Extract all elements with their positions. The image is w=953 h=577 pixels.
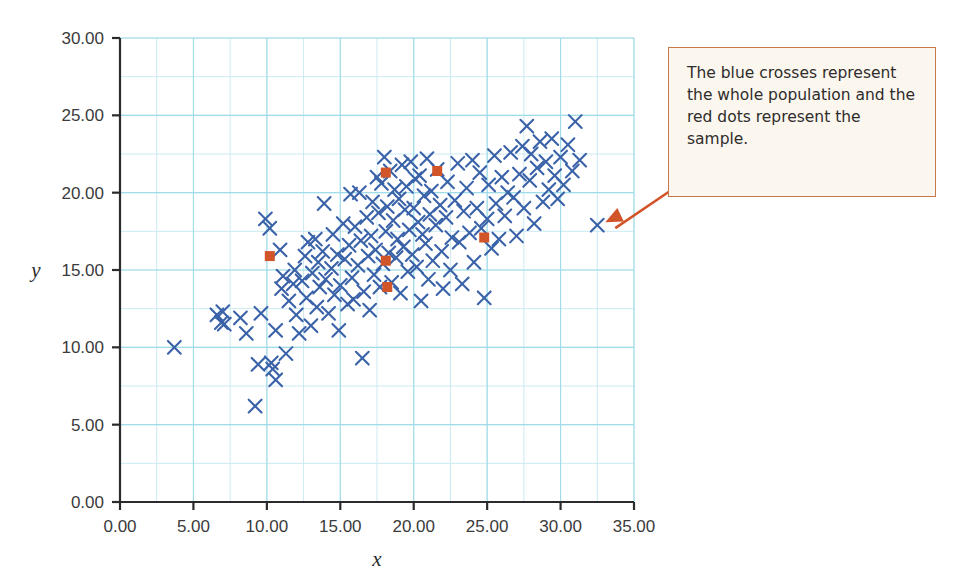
y-tick-label: 20.00 [61,184,104,203]
population-point [406,248,419,261]
population-point [441,175,454,188]
population-point [416,228,429,241]
x-tick-label: 15.00 [319,517,362,536]
sample-point [479,233,489,243]
population-point [468,256,481,269]
population-point [488,149,501,162]
population-point [269,324,282,337]
population-point [391,233,404,246]
x-axis-title: x [371,547,382,571]
population-point [357,285,370,298]
population-point [415,295,428,308]
population-point [343,239,356,252]
population-point [418,189,431,202]
population-point [316,245,329,258]
population-point [419,237,432,250]
population-point [498,209,511,222]
population-point [269,373,282,386]
x-tick-label: 0.00 [103,517,136,536]
sample-point [381,168,391,178]
population-point [305,319,318,332]
y-tick-label: 15.00 [61,261,104,280]
population-point [274,243,287,256]
population-point [369,243,382,256]
population-point [299,250,312,263]
population-point [337,217,350,230]
sample-point [382,282,392,292]
population-point [360,211,373,224]
population-point [422,273,435,286]
y-tick-label: 25.00 [61,106,104,125]
population-point [457,205,470,218]
y-tick-labels: 0.005.0010.0015.0020.0025.0030.00 [61,29,104,512]
population-point [478,291,491,304]
population-point [466,154,479,167]
population-point [313,281,326,294]
callout-arrow [605,191,670,228]
population-point [347,293,360,306]
population-point [528,217,541,230]
y-tick-label: 30.00 [61,29,104,48]
population-point [331,248,344,261]
x-tick-label: 25.00 [466,517,509,536]
sample-point [265,251,275,261]
population-point [363,304,376,317]
scatter-plot-figure: 0.005.0010.0015.0020.0025.0030.0035.00 0… [0,0,953,577]
population-point [495,171,508,184]
population-point [381,200,394,213]
x-tick-label: 35.00 [613,517,656,536]
population-point [249,400,262,413]
population-point [378,151,391,164]
population-point [473,166,486,179]
population-point [545,132,558,145]
population-point [539,155,552,168]
population-point [492,233,505,246]
sample-point [381,256,391,266]
population-point [252,358,265,371]
arrow-head-icon [605,208,624,222]
population-point [551,192,564,205]
x-tick-label: 5.00 [177,517,210,536]
population-point [531,162,544,175]
x-tick-labels: 0.005.0010.0015.0020.0025.0030.0035.00 [103,517,655,536]
population-point [482,179,495,192]
population-point [435,245,448,258]
population-point [332,324,345,337]
population-point [216,305,229,318]
population-point [456,278,469,291]
callout-text: The blue crosses represent the whole pop… [687,62,919,150]
population-point [562,138,575,151]
sample-point [432,166,442,176]
population-point [437,282,450,295]
population-point [234,312,247,325]
population-point [569,115,582,128]
y-axis-title: y [29,258,41,282]
population-point [356,352,369,365]
population-point [520,120,533,133]
x-tick-label: 10.00 [246,517,289,536]
population-point [425,185,438,198]
population-point [445,231,458,244]
population-point [537,196,550,209]
population-point [318,197,331,210]
x-tick-label: 30.00 [539,517,582,536]
y-tick-label: 5.00 [71,416,104,435]
population-point [557,179,570,192]
population-point [434,199,447,212]
y-tick-label: 0.00 [71,493,104,512]
population-point [290,308,303,321]
population-point [451,157,464,170]
population-point [282,295,295,308]
population-point [534,135,547,148]
population-point [275,282,288,295]
population-point [346,271,359,284]
callout-box: The blue crosses represent the whole pop… [668,47,936,197]
population-point [280,347,293,360]
population-point [413,169,426,182]
x-tick-label: 20.00 [392,517,435,536]
population-point [463,226,476,239]
population-point [240,327,253,340]
y-tick-label: 10.00 [61,338,104,357]
population-point [394,287,407,300]
